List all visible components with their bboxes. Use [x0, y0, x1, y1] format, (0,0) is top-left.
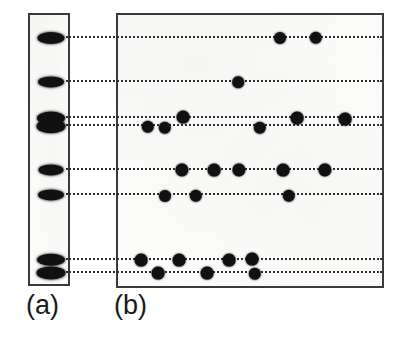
panel-a-caption: (a)	[26, 292, 59, 319]
plate-b-spot-row-8	[152, 267, 165, 280]
plate-b-spot-row-7	[135, 254, 148, 267]
lane-a-band	[39, 164, 64, 175]
plate-b-spot-row-1	[310, 32, 322, 44]
lane-a-band	[38, 189, 64, 200]
trace-line-row-4	[66, 124, 382, 126]
lane-a-band	[38, 76, 64, 87]
plate-b-spot-row-4	[159, 122, 171, 134]
plate-b-spot-row-2	[232, 76, 244, 88]
plate-b-spot-row-1	[274, 32, 286, 44]
plate-b-spot-row-6	[283, 190, 295, 202]
plate-b-spot-row-4	[254, 122, 266, 134]
trace-line-row-8	[66, 271, 382, 273]
plate-b-spot-row-5	[208, 164, 221, 177]
plate-b-spot-row-8	[201, 267, 214, 280]
plate-b-spot-row-7	[173, 254, 186, 267]
figure-canvas: (a) (b)	[0, 0, 400, 344]
trace-line-row-5	[66, 168, 382, 170]
plate-b-spot-row-5	[318, 163, 331, 176]
lane-a-band	[38, 32, 65, 44]
plate-b-spot-row-6	[159, 190, 171, 202]
lane-a-band	[37, 119, 66, 133]
trace-line-row-3	[66, 116, 382, 118]
plate-b-spot-row-3	[291, 112, 304, 125]
plate-b-spot-row-5	[232, 163, 245, 176]
plate-b-spot-row-4	[142, 121, 154, 133]
panel-a-lane	[28, 13, 70, 286]
panel-b-caption: (b)	[114, 292, 147, 319]
trace-line-row-2	[66, 80, 382, 82]
trace-line-row-6	[66, 193, 382, 195]
plate-b-spot-row-7	[246, 253, 259, 266]
plate-b-spot-row-3	[177, 111, 190, 124]
plate-b-spot-row-3	[339, 113, 352, 126]
panel-b-plate	[116, 13, 384, 288]
plate-b-spot-row-5	[175, 163, 188, 176]
trace-line-row-1	[66, 36, 382, 38]
plate-b-spot-row-7	[223, 254, 236, 267]
plate-b-spot-row-8	[249, 268, 261, 280]
lane-a-band	[37, 254, 65, 266]
plate-b-spot-row-6	[190, 190, 202, 202]
plate-b-spot-row-5	[277, 164, 290, 177]
lane-a-band	[37, 266, 66, 279]
